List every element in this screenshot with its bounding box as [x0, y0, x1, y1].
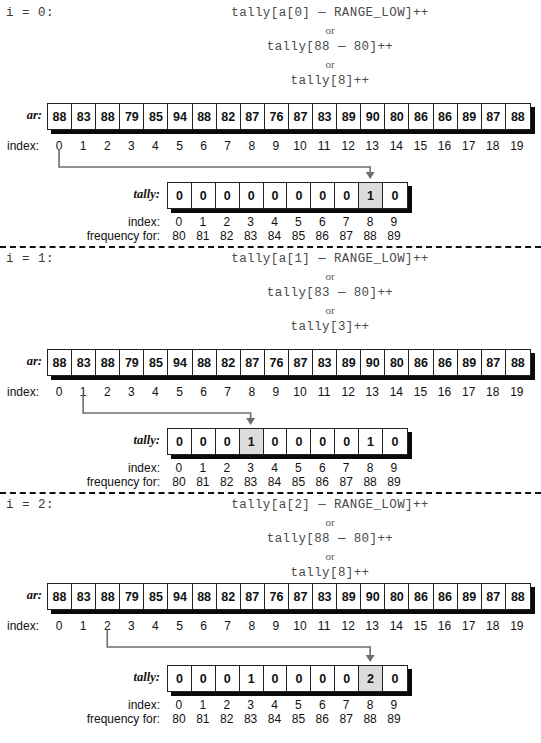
tally-index-value: 0	[167, 215, 191, 229]
tally-index-value: 8	[358, 215, 382, 229]
tally-index-value: 9	[382, 461, 406, 475]
tally-index-value: 3	[239, 461, 263, 475]
tally-cell: 1	[240, 666, 264, 691]
tally-index-row-1: index: 0123456789	[167, 461, 406, 475]
tally-cell: 0	[192, 183, 216, 208]
tally-index-value: 1	[191, 461, 215, 475]
tally-cell: 0	[240, 183, 264, 208]
tally-frequency-value: 85	[286, 475, 310, 489]
tally-cell: 0	[216, 666, 240, 691]
tally-cell: 0	[168, 666, 192, 691]
tally-frequency-row-2: frequency for: 80818283848586878889	[167, 712, 406, 726]
tally-cell: 0	[216, 183, 240, 208]
tally-frequency-label-1: frequency for:	[87, 475, 167, 489]
tally-cell: 0	[287, 183, 311, 208]
iteration-section-1: i = 1: tally[a[1] — RANGE_LOW]++ or tall…	[0, 246, 541, 492]
tally-index-value: 5	[286, 461, 310, 475]
tally-index-value: 1	[191, 215, 215, 229]
connector-arrow-0	[0, 0, 541, 246]
tally-frequency-value: 83	[239, 712, 263, 726]
tally-cell: 0	[192, 429, 216, 454]
tally-frequency-value: 87	[334, 712, 358, 726]
tally-cell: 0	[335, 666, 359, 691]
tally-index-value: 2	[215, 461, 239, 475]
tally-index-label-2: index:	[128, 698, 167, 712]
tally-index-value: 2	[215, 698, 239, 712]
tally-index-value: 6	[310, 698, 334, 712]
tally-cell: 0	[311, 183, 335, 208]
tally-frequency-value: 84	[263, 712, 287, 726]
tally-frequency-value: 81	[191, 475, 215, 489]
tally-index-value: 0	[167, 461, 191, 475]
tally-frequency-value: 87	[334, 229, 358, 243]
tally-cell: 0	[287, 429, 311, 454]
tally-frequency-value: 84	[263, 229, 287, 243]
figure-canvas: i = 0: tally[a[0] — RANGE_LOW]++ or tall…	[0, 0, 541, 743]
tally-cell: 0	[168, 429, 192, 454]
tally-frequency-value: 80	[167, 229, 191, 243]
tally-frequency-value: 89	[382, 475, 406, 489]
tally-frequency-row-1: frequency for: 80818283848586878889	[167, 475, 406, 489]
tally-array-2: 0001000020	[167, 665, 408, 692]
tally-cell: 0	[264, 429, 288, 454]
tally-index-value: 0	[167, 698, 191, 712]
tally-cell: 1	[240, 429, 264, 454]
tally-cell: 1	[359, 429, 383, 454]
tally-index-value: 6	[310, 461, 334, 475]
tally-frequency-value: 85	[286, 229, 310, 243]
tally-index-value: 7	[334, 215, 358, 229]
tally-frequency-value: 83	[239, 475, 263, 489]
tally-frequency-value: 87	[334, 475, 358, 489]
tally-cell: 0	[264, 183, 288, 208]
tally-frequency-value: 82	[215, 712, 239, 726]
tally-cell: 0	[216, 429, 240, 454]
tally-cell: 0	[287, 666, 311, 691]
tally-cell: 0	[383, 666, 407, 691]
tally-index-value: 2	[215, 215, 239, 229]
tally-index-value: 5	[286, 215, 310, 229]
tally-array-label-1: tally:	[100, 433, 160, 448]
tally-index-value: 4	[263, 698, 287, 712]
tally-frequency-value: 81	[191, 712, 215, 726]
tally-frequency-value: 80	[167, 712, 191, 726]
tally-cell: 0	[168, 183, 192, 208]
tally-frequency-value: 82	[215, 475, 239, 489]
tally-frequency-value: 89	[382, 229, 406, 243]
tally-frequency-value: 89	[382, 712, 406, 726]
tally-cell: 0	[311, 666, 335, 691]
tally-cell: 0	[383, 429, 407, 454]
tally-frequency-value: 86	[310, 712, 334, 726]
tally-index-row-2: index: 0123456789	[167, 698, 406, 712]
tally-frequency-value: 88	[358, 712, 382, 726]
tally-frequency-value: 84	[263, 475, 287, 489]
tally-frequency-value: 86	[310, 475, 334, 489]
tally-cell: 0	[264, 666, 288, 691]
tally-cell: 0	[335, 183, 359, 208]
tally-index-value: 6	[310, 215, 334, 229]
tally-frequency-row-0: frequency for: 80818283848586878889	[167, 229, 406, 243]
tally-array-label-2: tally:	[100, 670, 160, 685]
tally-frequency-value: 82	[215, 229, 239, 243]
tally-frequency-value: 80	[167, 475, 191, 489]
tally-array-0: 0000000010	[167, 182, 408, 209]
tally-index-value: 7	[334, 698, 358, 712]
tally-index-value: 7	[334, 461, 358, 475]
tally-index-value: 8	[358, 461, 382, 475]
tally-array-1: 0001000010	[167, 428, 408, 455]
tally-index-label-1: index:	[128, 461, 167, 475]
tally-frequency-label-0: frequency for:	[87, 229, 167, 243]
tally-cell: 1	[359, 183, 383, 208]
connector-arrow-1	[0, 246, 541, 492]
tally-frequency-value: 86	[310, 229, 334, 243]
tally-index-value: 1	[191, 698, 215, 712]
tally-index-row-0: index: 0123456789	[167, 215, 406, 229]
tally-index-value: 4	[263, 461, 287, 475]
tally-index-value: 9	[382, 215, 406, 229]
tally-cell: 0	[383, 183, 407, 208]
tally-cell: 2	[359, 666, 383, 691]
tally-index-value: 3	[239, 698, 263, 712]
tally-index-value: 4	[263, 215, 287, 229]
tally-frequency-value: 83	[239, 229, 263, 243]
tally-frequency-value: 81	[191, 229, 215, 243]
tally-index-value: 8	[358, 698, 382, 712]
